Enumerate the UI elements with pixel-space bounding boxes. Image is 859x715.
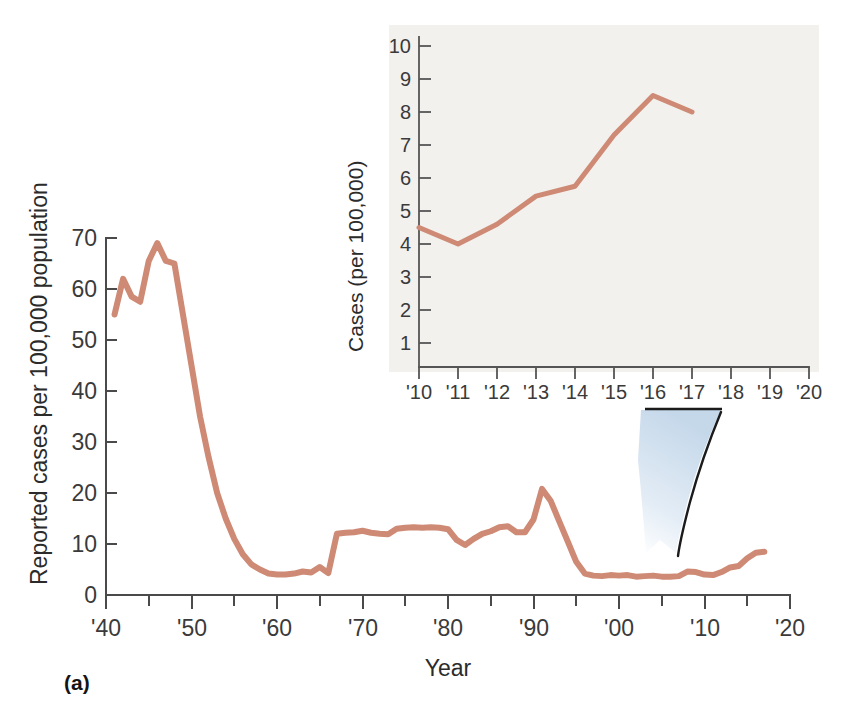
inset-x-tick-label-17: '17 (679, 381, 705, 403)
main-y-tick-label-20: 20 (71, 480, 97, 506)
inset-x-tick-label-10: '10 (406, 381, 432, 403)
inset-y-tick-label-4: 4 (400, 233, 411, 255)
main-x-tick-label-00: '00 (604, 615, 634, 641)
inset-y-tick-label-7: 7 (400, 134, 411, 156)
main-y-ticks (106, 238, 117, 595)
main-x-tick-label-10: '10 (690, 615, 720, 641)
inset-x-tick-label-14: '14 (562, 381, 588, 403)
panel-label: (a) (64, 671, 90, 694)
inset-x-tick-label-15: '15 (601, 381, 627, 403)
inset-y-tick-label-9: 9 (400, 68, 411, 90)
inset-x-tick-label-12: '12 (484, 381, 510, 403)
inset-x-tick-label-18: '18 (718, 381, 744, 403)
main-x-axis-title: Year (425, 655, 472, 681)
main-x-tick-label-80: '80 (433, 615, 463, 641)
inset-background-panel (389, 25, 819, 372)
callout-arrow (638, 409, 722, 556)
inset-y-tick-label-6: 6 (400, 167, 411, 189)
inset-y-tick-label-3: 3 (400, 266, 411, 288)
main-y-axis-title: Reported cases per 100,000 population (26, 182, 52, 585)
inset-x-tick-label-20: '20 (796, 381, 822, 403)
inset-y-tick-label-5: 5 (400, 200, 411, 222)
main-y-tick-label-60: 60 (71, 276, 97, 302)
main-x-tick-label-40: '40 (91, 615, 121, 641)
main-y-tick-label-70: 70 (71, 225, 97, 251)
main-x-tick-label-50: '50 (177, 615, 207, 641)
main-x-tick-label-70: '70 (348, 615, 378, 641)
main-x-major-ticks (106, 595, 790, 609)
inset-x-tick-label-19: '19 (757, 381, 783, 403)
inset-y-tick-label-2: 2 (400, 299, 411, 321)
main-y-tick-label-50: 50 (71, 327, 97, 353)
inset-x-tick-label-13: '13 (523, 381, 549, 403)
main-x-tick-label-20: '20 (775, 615, 805, 641)
inset-x-tick-label-16: '16 (640, 381, 666, 403)
main-y-tick-label-30: 30 (71, 429, 97, 455)
inset-y-axis-title: Cases (per 100,000) (344, 161, 367, 352)
inset-y-tick-label-10: 10 (389, 35, 411, 57)
main-y-tick-label-0: 0 (84, 582, 97, 608)
main-x-tick-label-90: '90 (519, 615, 549, 641)
main-y-tick-label-10: 10 (71, 531, 97, 557)
inset-x-tick-label-11: '11 (446, 381, 471, 403)
inset-y-tick-label-1: 1 (400, 332, 411, 354)
main-x-tick-label-60: '60 (262, 615, 292, 641)
figure-panel-a: 0 10 20 30 40 50 60 70 (0, 0, 859, 715)
inset-y-tick-label-8: 8 (400, 101, 411, 123)
chart-canvas: 0 10 20 30 40 50 60 70 (0, 0, 859, 715)
arrow-body (638, 410, 721, 553)
main-y-tick-label-40: 40 (71, 378, 97, 404)
